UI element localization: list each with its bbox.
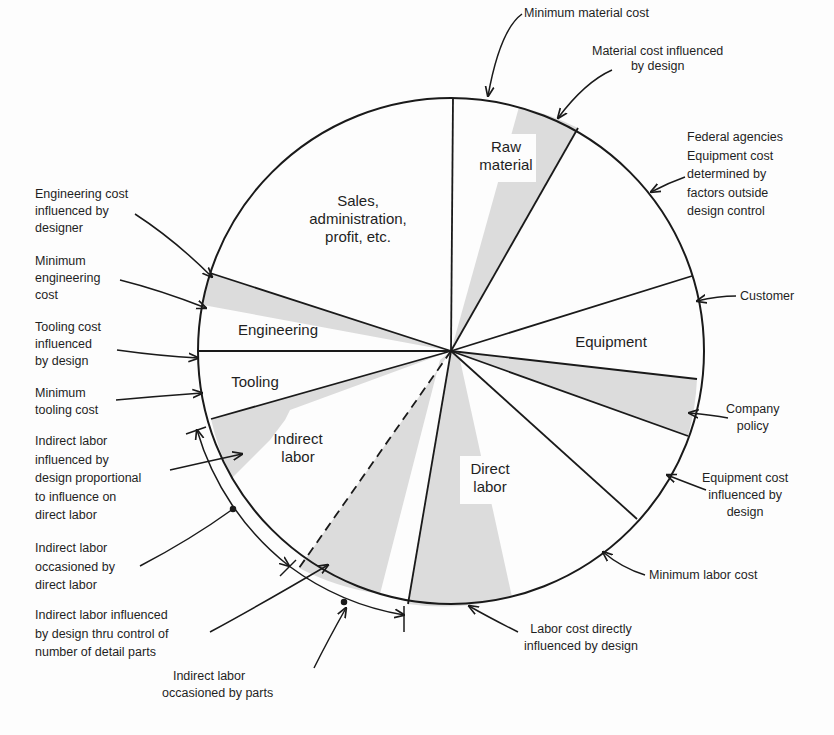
label-line: direct labor xyxy=(35,576,115,595)
label-line: Minimum xyxy=(35,253,100,270)
annotation-labor-cost-direct: Labor cost directly influenced by design xyxy=(524,621,638,655)
label-line: Tooling cost xyxy=(35,319,101,336)
annotation-minimum-engineering-cost: Minimum engineering cost xyxy=(35,253,100,304)
annotation-indirect-labor-direct: Indirect labor occasioned by direct labo… xyxy=(35,539,115,595)
label-line: material xyxy=(470,156,542,174)
segment-label-raw-material: Raw material xyxy=(470,138,542,174)
annotation-material-cost-influenced: Material cost influenced by design xyxy=(592,44,723,74)
label-line: tooling cost xyxy=(35,402,98,419)
annotation-equipment-cost-influenced: Equipment cost influenced by design xyxy=(702,470,788,521)
label-line: Direct xyxy=(454,460,526,478)
label-line: number of detail parts xyxy=(35,643,168,662)
segment-label-tooling: Tooling xyxy=(220,373,290,391)
label-line: Company xyxy=(726,401,780,418)
label-line: profit, etc. xyxy=(296,228,420,246)
label-line: Equipment cost xyxy=(687,147,783,166)
label-line: factors outside xyxy=(687,184,783,203)
label-line: Sales, xyxy=(296,192,420,210)
annotation-customer: Customer xyxy=(740,289,794,304)
label-line: design xyxy=(702,504,788,521)
label-line: Labor cost directly xyxy=(524,621,638,638)
label-line: occasioned by xyxy=(35,558,115,577)
label-line: design control xyxy=(687,202,783,221)
annotation-tooling-cost-influenced: Tooling cost influenced by design xyxy=(35,319,101,370)
segment-label-engineering: Engineering xyxy=(228,321,328,339)
label-line: Material cost influenced xyxy=(592,44,723,59)
label-line: Indirect labor xyxy=(35,432,141,451)
label-line: labor xyxy=(454,478,526,496)
label-line: by design xyxy=(592,59,723,74)
annotation-minimum-tooling-cost: Minimum tooling cost xyxy=(35,385,98,419)
label-line: Engineering xyxy=(228,321,328,339)
label-line: design proportional xyxy=(35,469,141,488)
label-line: Raw xyxy=(470,138,542,156)
label-line: determined by xyxy=(687,165,783,184)
segment-label-equipment: Equipment xyxy=(555,333,667,351)
annotation-engineering-cost-influenced: Engineering cost influenced by designer xyxy=(35,186,128,237)
segment-label-indirect-labor: Indirect labor xyxy=(262,430,334,466)
label-line: Indirect labor xyxy=(35,539,115,558)
label-line: influenced xyxy=(35,336,101,353)
label-line: direct labor xyxy=(35,506,141,525)
label-line: Minimum xyxy=(35,385,98,402)
annotation-indirect-labor-proportional: Indirect labor influenced by design prop… xyxy=(35,432,141,525)
label-line: Equipment cost xyxy=(702,470,788,487)
label-line: cost xyxy=(35,287,100,304)
label-line: designer xyxy=(35,220,128,237)
label-line: Equipment xyxy=(555,333,667,351)
annotation-minimum-labor-cost: Minimum labor cost xyxy=(649,568,757,583)
label-line: labor xyxy=(262,448,334,466)
label-line: Minimum material cost xyxy=(524,6,649,21)
annotation-minimum-material-cost: Minimum material cost xyxy=(524,6,649,21)
label-line: influenced by xyxy=(35,203,128,220)
label-line: engineering xyxy=(35,270,100,287)
annotation-federal-agencies: Federal agencies Equipment cost determin… xyxy=(687,128,783,221)
label-line: policy xyxy=(726,418,780,435)
label-line: administration, xyxy=(296,210,420,228)
label-line: occasioned by parts xyxy=(162,685,273,702)
segment-label-sales: Sales, administration, profit, etc. xyxy=(296,192,420,246)
label-line: Federal agencies xyxy=(687,128,783,147)
label-line: by design thru control of xyxy=(35,625,168,644)
label-line: influenced by xyxy=(35,451,141,470)
label-line: Indirect labor influenced xyxy=(35,606,168,625)
label-line: Tooling xyxy=(220,373,290,391)
annotation-indirect-labor-parts: Indirect labor occasioned by parts xyxy=(162,668,273,702)
label-line: Engineering cost xyxy=(35,186,128,203)
annotation-indirect-labor-detail-parts: Indirect labor influenced by design thru… xyxy=(35,606,168,662)
label-line: Customer xyxy=(740,289,794,304)
label-line: Indirect xyxy=(262,430,334,448)
label-line: influenced by xyxy=(702,487,788,504)
segment-label-direct-labor: Direct labor xyxy=(454,460,526,496)
label-line: by design xyxy=(35,353,101,370)
label-line: to influence on xyxy=(35,488,141,507)
label-line: influenced by design xyxy=(524,638,638,655)
label-line: Indirect labor xyxy=(162,668,273,685)
label-line: Minimum labor cost xyxy=(649,568,757,583)
annotation-company-policy: Company policy xyxy=(726,401,780,435)
